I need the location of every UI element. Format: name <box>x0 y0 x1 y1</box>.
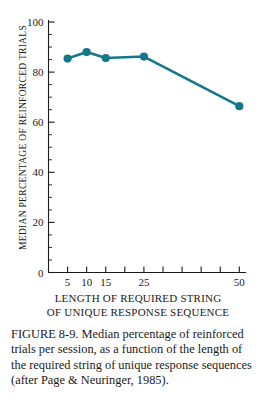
y-axis-tick-label: 20 <box>33 216 45 228</box>
data-point-marker <box>102 54 110 62</box>
y-axis-tick-label: 60 <box>33 116 45 128</box>
data-point-marker <box>63 54 71 62</box>
figure-container: MEDIAN PERCENTAGE OF REINFORCED TRIALS 0… <box>0 0 266 400</box>
x-axis-tick-label: 25 <box>138 276 150 288</box>
y-axis-tick-label: 100 <box>27 16 44 28</box>
x-axis-title-line-2: OF UNIQUE RESPONSE SEQUENCE <box>18 306 258 320</box>
y-axis-tick-label: 80 <box>33 66 45 78</box>
x-axis-title: LENGTH OF REQUIRED STRING OF UNIQUE RESP… <box>18 292 258 319</box>
x-axis-tick-label: 10 <box>81 276 93 288</box>
y-axis-tick-label: 40 <box>33 166 45 178</box>
chart-plot-area: MEDIAN PERCENTAGE OF REINFORCED TRIALS 0… <box>0 0 266 288</box>
y-axis-tick-label: 0 <box>38 267 44 279</box>
data-point-marker <box>235 102 243 110</box>
data-series-line <box>68 52 240 106</box>
figure-caption: FIGURE 8-9. Median percentage of reinfor… <box>11 327 257 389</box>
x-axis-tick-label: 50 <box>234 276 246 288</box>
data-point-marker <box>140 52 148 60</box>
x-axis-tick-label: 5 <box>65 276 71 288</box>
data-point-marker <box>83 48 91 56</box>
x-axis-title-line-1: LENGTH OF REQUIRED STRING <box>18 292 258 306</box>
x-axis-tick-label: 15 <box>100 276 112 288</box>
line-chart: 020406080100510152550 <box>0 0 266 288</box>
